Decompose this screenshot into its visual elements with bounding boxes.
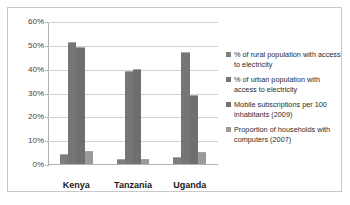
legend-item[interactable]: Proportion of households with computers … [226, 125, 341, 144]
bar[interactable] [60, 154, 68, 164]
plot-inner [48, 22, 218, 165]
bar-group-uganda [161, 21, 218, 164]
y-axis: 60%50%40%30%20%10%0% [8, 22, 44, 167]
y-axis-tick-label: 60% [10, 18, 44, 26]
chart-container: 60%50%40%30%20%10%0% KenyaTanzaniaUganda… [7, 7, 342, 192]
y-axis-tick-label: 0% [10, 161, 44, 169]
bar[interactable] [117, 159, 125, 164]
legend-swatch-icon [226, 77, 231, 82]
legend-swatch-icon [226, 127, 231, 132]
y-axis-tick-label: 20% [10, 113, 44, 121]
x-axis-tick-label-uganda: Uganda [161, 180, 218, 191]
x-axis-tick-label-tanzania: Tanzania [105, 180, 162, 191]
x-axis: KenyaTanzaniaUganda [48, 180, 218, 194]
bar[interactable] [85, 151, 93, 164]
legend-item[interactable]: % of rural population with access to ele… [226, 50, 341, 69]
y-axis-tick-label: 10% [10, 137, 44, 145]
legend-item[interactable]: % of urban population with access to ele… [226, 75, 341, 94]
bar[interactable] [181, 52, 189, 164]
bar[interactable] [76, 47, 84, 164]
bar-group-kenya [48, 21, 105, 164]
bar[interactable] [125, 71, 133, 164]
y-axis-tick-label: 50% [10, 42, 44, 50]
bar[interactable] [68, 42, 76, 164]
legend-item-label: Mobile subscriptions per 100 inhabitants… [234, 100, 341, 119]
bar-group-tanzania [105, 21, 162, 164]
legend-item-label: % of rural population with access to ele… [234, 50, 341, 69]
legend-swatch-icon [226, 52, 231, 57]
x-axis-line [48, 164, 218, 165]
legend-item-label: Proportion of households with computers … [234, 125, 341, 144]
bar[interactable] [198, 152, 206, 164]
x-axis-tick-label-kenya: Kenya [48, 180, 105, 191]
bar[interactable] [173, 157, 181, 164]
chart-legend: % of rural population with access to ele… [226, 50, 341, 150]
bar[interactable] [190, 95, 198, 164]
legend-item-label: % of urban population with access to ele… [234, 75, 341, 94]
y-axis-tick-label: 40% [10, 66, 44, 74]
legend-swatch-icon [226, 102, 231, 107]
bar[interactable] [133, 69, 141, 164]
legend-item[interactable]: Mobile subscriptions per 100 inhabitants… [226, 100, 341, 119]
plot-area [48, 22, 218, 179]
bar[interactable] [141, 159, 149, 164]
y-axis-tick-label: 30% [10, 90, 44, 98]
